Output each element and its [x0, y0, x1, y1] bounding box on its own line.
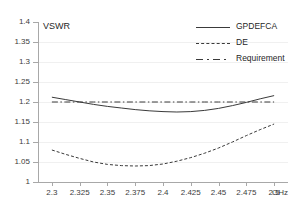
plot-area	[38, 22, 288, 182]
x-axis-line	[38, 182, 288, 183]
legend-item-label: Requirement	[236, 53, 285, 64]
y-tick-label: 1.35	[14, 38, 30, 46]
y-tick-label: 1.25	[14, 78, 30, 86]
y-tick-label: 1.05	[14, 158, 30, 166]
y-tick-label: 1.3	[19, 58, 30, 66]
series-line-gpdefca	[52, 96, 274, 112]
y-tick-label: 1.1	[19, 138, 30, 146]
series-line-de	[52, 124, 274, 166]
y-tick-label: 1.2	[19, 98, 30, 106]
y-tick-label: 1	[26, 178, 30, 186]
legend-line-swatch	[196, 59, 230, 60]
legend-item-label: GPDEFCA	[236, 21, 277, 32]
x-axis-unit-label: GHz	[272, 189, 288, 197]
legend-item-label: DE	[236, 37, 248, 48]
legend-line-swatch	[196, 27, 230, 28]
legend-line-swatch	[196, 43, 230, 44]
y-tick-label: 1.15	[14, 118, 30, 126]
vswr-line-chart: VSWR 1.41.351.31.251.21.151.11.051 2.32.…	[0, 0, 298, 211]
series-layer	[38, 22, 288, 182]
y-tick-label: 1.4	[19, 18, 30, 26]
